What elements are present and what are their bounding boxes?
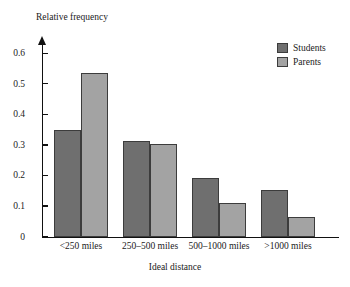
bar-students-3 <box>261 190 288 237</box>
chart-figure: Relative frequency 00.10.20.30.40.50.6 <… <box>0 0 350 287</box>
legend-item: Students <box>277 41 326 54</box>
y-axis-line <box>42 38 43 237</box>
y-axis-tick-label: 0.5 <box>13 79 25 89</box>
bar-students-1 <box>123 141 150 236</box>
bar-students-2 <box>192 178 219 237</box>
legend-swatch-icon <box>277 43 288 53</box>
bar-students-0 <box>54 130 81 237</box>
y-axis-tick <box>42 144 48 145</box>
bar-parents-1 <box>150 144 177 237</box>
x-axis-line <box>42 237 339 238</box>
y-axis-tick-label: 0.1 <box>13 201 25 211</box>
legend-label: Students <box>293 43 326 53</box>
y-axis-tick-label: 0.6 <box>13 48 25 58</box>
y-axis-tick <box>42 236 48 237</box>
y-axis-title: Relative frequency <box>36 12 108 22</box>
y-axis-tick-label: 0.3 <box>13 140 25 150</box>
y-axis-tick <box>42 53 48 54</box>
legend-label: Parents <box>293 57 321 67</box>
y-axis-arrow-icon <box>38 36 46 45</box>
x-axis-category-label: >1000 miles <box>264 241 311 251</box>
y-axis-tick <box>42 83 48 84</box>
y-axis-tick-label: 0 <box>20 232 25 242</box>
bar-parents-2 <box>219 203 246 237</box>
bar-parents-3 <box>288 217 315 237</box>
x-axis-category-label: 500–1000 miles <box>189 241 250 251</box>
y-axis-tick <box>42 175 48 176</box>
y-axis-tick-label: 0.4 <box>13 109 25 119</box>
legend-swatch-icon <box>277 57 288 67</box>
legend-item: Parents <box>277 55 326 68</box>
x-axis-title: Ideal distance <box>0 262 350 272</box>
y-axis-tick-label: 0.2 <box>13 170 25 180</box>
x-axis-category-label: <250 miles <box>60 241 103 251</box>
chart-legend: StudentsParents <box>277 41 326 69</box>
bar-parents-0 <box>81 73 108 236</box>
y-axis-tick <box>42 205 48 206</box>
x-axis-category-label: 250–500 miles <box>122 241 178 251</box>
y-axis-tick <box>42 114 48 115</box>
